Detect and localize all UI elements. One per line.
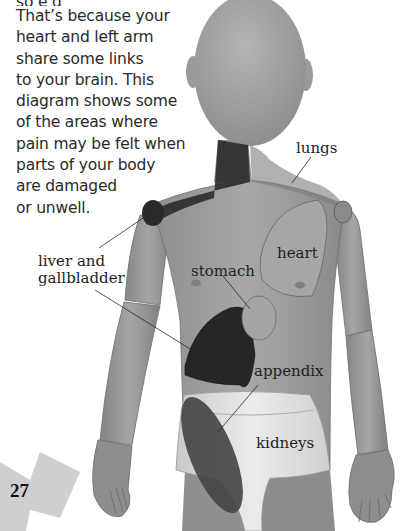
intro-line: heart and left arm	[16, 27, 216, 48]
left-arm	[335, 205, 394, 522]
intro-line: pain may be felt when	[16, 134, 216, 155]
label-kidneys: kidneys	[256, 435, 314, 451]
label-heart: heart	[277, 245, 318, 261]
label-gallbladder: gallbladder	[38, 270, 125, 286]
intro-line: share some links	[16, 49, 216, 70]
label-stomach: stomach	[191, 263, 255, 279]
intro-line: are damaged	[16, 176, 216, 197]
intro-line: of the areas where	[16, 112, 216, 133]
label-lungs: lungs	[296, 140, 337, 156]
intro-line: or unwell.	[16, 198, 216, 219]
intro-paragraph: so e g That’s because your heart and lef…	[16, 0, 216, 219]
intro-line: parts of your body	[16, 155, 216, 176]
stomach-area	[242, 296, 276, 340]
intro-line: to your brain. This	[16, 70, 216, 91]
page-number: 27	[10, 480, 29, 502]
label-appendix: appendix	[254, 363, 324, 379]
intro-line: diagram shows some	[16, 91, 216, 112]
intro-line: That’s because your	[16, 6, 216, 27]
label-liver: liver and	[38, 253, 105, 269]
